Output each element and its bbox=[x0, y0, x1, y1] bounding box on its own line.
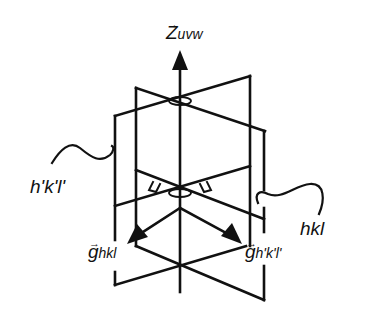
leader-hkl bbox=[257, 184, 323, 214]
label-g-hkl: →ghkl bbox=[88, 241, 116, 263]
leader-h'k'l' bbox=[52, 145, 113, 163]
g-h'k'l'-arrowhead bbox=[221, 223, 242, 244]
g-hkl-subscript: hkl bbox=[99, 245, 117, 261]
zone-axis-diagram bbox=[0, 0, 366, 317]
right-angle-mark-right bbox=[200, 182, 211, 192]
vector-g-h'k'l'-shaft bbox=[180, 208, 228, 234]
label-zone-axis: →Zuvw bbox=[166, 22, 203, 44]
g-hkl-arrowhead bbox=[127, 224, 148, 244]
g-h'k'l'-subscript: h'k'l' bbox=[256, 245, 282, 261]
vector-arrow-icon: → bbox=[89, 238, 100, 249]
zone-axis-arrowhead bbox=[172, 50, 188, 70]
right-angle-mark-left bbox=[149, 182, 160, 192]
label-plane-h'k'l': h'k'l' bbox=[30, 176, 65, 198]
label-plane-hkl: hkl bbox=[300, 218, 324, 240]
vector-arrow-icon: → bbox=[246, 238, 257, 249]
zone-axis-subscript: uvw bbox=[178, 26, 203, 42]
label-g-h'k'l': →gh'k'l' bbox=[245, 241, 282, 263]
vector-arrow-icon: → bbox=[167, 19, 178, 30]
vector-g-hkl-shaft bbox=[140, 208, 180, 234]
